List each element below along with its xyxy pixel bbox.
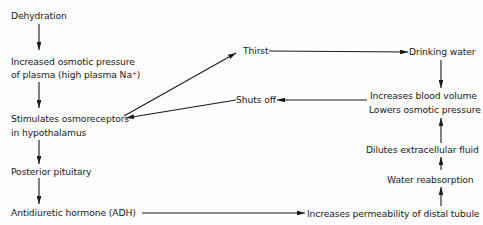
node-increased-osmotic-pressure-line1: Increased osmotic pressure	[11, 55, 135, 68]
adh-flow-diagram: Dehydration Increased osmotic pressure o…	[0, 0, 483, 225]
node-thirst: Thirst	[243, 44, 269, 57]
node-stimulates-osmoreceptors-line2: in hypothalamus	[11, 126, 86, 139]
arrow-osmoreceptors-to-thirst	[124, 53, 236, 116]
arrow-shutsoff-to-osmoreceptors	[126, 100, 236, 118]
node-shuts-off: Shuts off	[236, 93, 276, 106]
node-dilutes-extracellular-fluid: Dilutes extracellular fluid	[366, 143, 479, 156]
node-posterior-pituitary: Posterior pituitary	[11, 165, 91, 178]
arrow-thirst-to-drinking	[269, 51, 408, 52]
node-increased-osmotic-pressure-line2: of plasma (high plasma Na⁺)	[11, 68, 140, 81]
node-dehydration: Dehydration	[11, 9, 67, 22]
node-antidiuretic-hormone: Antidiuretic hormone (ADH)	[11, 206, 136, 219]
node-drinking-water: Drinking water	[409, 45, 475, 58]
node-water-reabsorption: Water reabsorption	[387, 173, 474, 186]
node-increases-permeability: Increases permeability of distal tubule	[307, 207, 479, 220]
node-stimulates-osmoreceptors-line1: Stimulates osmoreceptors	[11, 112, 129, 125]
node-increases-blood-volume: Increases blood volume	[370, 89, 477, 102]
node-lowers-osmotic-pressure: Lowers osmotic pressure	[369, 103, 481, 116]
